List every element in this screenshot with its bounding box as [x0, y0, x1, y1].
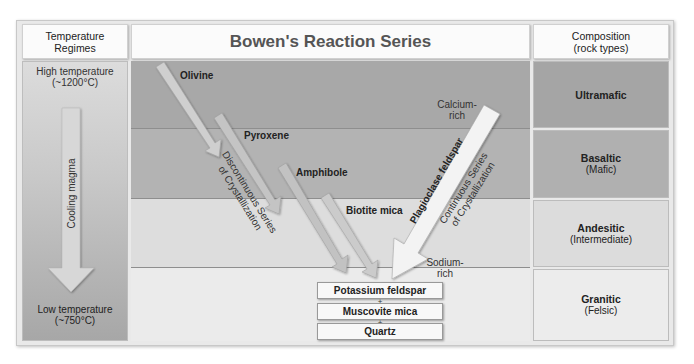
- mineral-pyroxene: Pyroxene: [244, 130, 289, 141]
- sodium-rich-note: Sodium- rich: [420, 257, 470, 279]
- mineral-olivine: Olivine: [180, 70, 213, 81]
- cooling-magma-label: Cooling magma: [66, 154, 77, 234]
- calcium-rich-note: Calcium- rich: [432, 99, 482, 121]
- calcium-line2: rich: [432, 110, 482, 121]
- mineral-biotite-mica: Biotite mica: [346, 205, 403, 216]
- plagioclase-arrow-icon: [392, 105, 500, 279]
- mineral-amphibole: Amphibole: [296, 167, 348, 178]
- sodium-line2: rich: [420, 268, 470, 279]
- final-mineral-quartz: Quartz: [317, 323, 443, 340]
- calcium-line1: Calcium-: [432, 99, 482, 110]
- sodium-line1: Sodium-: [420, 257, 470, 268]
